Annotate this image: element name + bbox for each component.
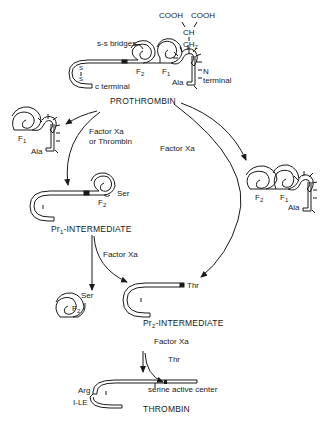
n-terminal-label-2: terminal (203, 76, 231, 85)
factor-xa-pr1-label: Factor Xa (103, 250, 138, 259)
pr2-intermediate-label: Pr2-INTERMEDIATE (143, 319, 224, 331)
cooh-left-label: COOH (159, 11, 183, 20)
ch-label: CH (183, 28, 195, 37)
cooh-right-label: COOH (191, 11, 215, 20)
c-terminal-label: c terminal (95, 82, 130, 91)
f1-label-left: F1 (18, 134, 26, 146)
f2-label-product: F2 (72, 304, 80, 316)
thrombin-label: THROMBIN (143, 405, 190, 414)
n-terminal-label-1: N (203, 67, 209, 76)
ile-label: I-LE (73, 398, 88, 407)
diagram-canvas (0, 0, 322, 424)
ss-label-top: SS (79, 65, 83, 82)
ch2-label: CH2 (183, 40, 198, 52)
pr2-chain-molecule (123, 283, 184, 317)
thr-label-released: Thr (168, 355, 180, 364)
ala-label-right: Ala (288, 203, 300, 212)
prothrombin-label: PROTHROMBIN (110, 97, 176, 106)
ss-bridges-label: s-s bridges (97, 39, 136, 48)
f1-label-right: F1 (280, 193, 288, 205)
serine-active-center-label: serine active center (148, 385, 217, 394)
thr-label-chain: Thr (187, 281, 199, 290)
ala-label-top: Ala (172, 78, 184, 87)
f2-label-right: F2 (255, 193, 263, 205)
factor-xa-or-thrombin-label-1: Factor Xa (89, 127, 124, 136)
pr1-intermediate-label: Pr1-INTERMEDIATE (51, 225, 132, 237)
arg-label: Arg (78, 386, 90, 395)
f2-label-top: F2 (136, 67, 144, 79)
ser-label-pr1: Ser (117, 189, 129, 198)
f2-f1-fragment-right (246, 165, 317, 213)
factor-xa-center-label: Factor Xa (160, 144, 195, 153)
pr1-intermediate-molecule (30, 173, 115, 221)
factor-xa-or-thrombin-label-2: or Thrombin (89, 137, 132, 146)
f1-label-top: F1 (162, 67, 170, 79)
f2-label-pr1: F2 (98, 198, 106, 210)
ala-label-left: Ala (31, 147, 43, 156)
ser-label-f2: Ser (81, 291, 93, 300)
factor-xa-pr2-label: Factor Xa (154, 337, 189, 346)
